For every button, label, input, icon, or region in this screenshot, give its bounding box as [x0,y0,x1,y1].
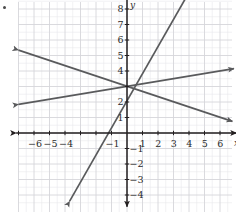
grid-major [18,2,232,212]
y-axis-letter: y [130,1,135,10]
y-tick-label-5: 5 [118,51,124,61]
plotted-lines [19,0,234,201]
y-tick-label-8: 8 [118,4,124,14]
y-tick-label-4: 4 [118,66,124,76]
x-axis-letter: x [234,139,236,148]
x-tick-label-5: 5 [202,139,208,149]
x-tick-label--6: −6 [28,139,42,149]
y-tick-label-7: 7 [118,20,124,30]
x-tick-label--1: −1 [106,139,120,149]
y-tick-label--3: −3 [130,175,144,185]
y-tick-label--2: −2 [130,159,144,169]
y-tick-label-2: 2 [118,97,124,107]
grid-minor [18,1,232,212]
y-tick-label-1: 1 [118,113,124,123]
x-tick-label-3: 3 [171,139,177,149]
y-tick-label--1: −1 [130,144,144,154]
x-tick-label--5: −5 [44,139,58,149]
x-tick-label-4: 4 [186,139,192,149]
x-tick-label--4: −4 [59,139,73,149]
x-tick-label-6: 6 [217,139,223,149]
y-tick-label--4: −4 [130,190,144,200]
plot-line-descending-line [19,50,233,121]
y-tick-label-6: 6 [118,35,124,45]
coordinate-plane-svg [0,0,236,215]
graph-figure: −6−5−4−11234568765421−1−2−3−4xy [0,0,236,215]
x-tick-label-2: 2 [155,139,161,149]
